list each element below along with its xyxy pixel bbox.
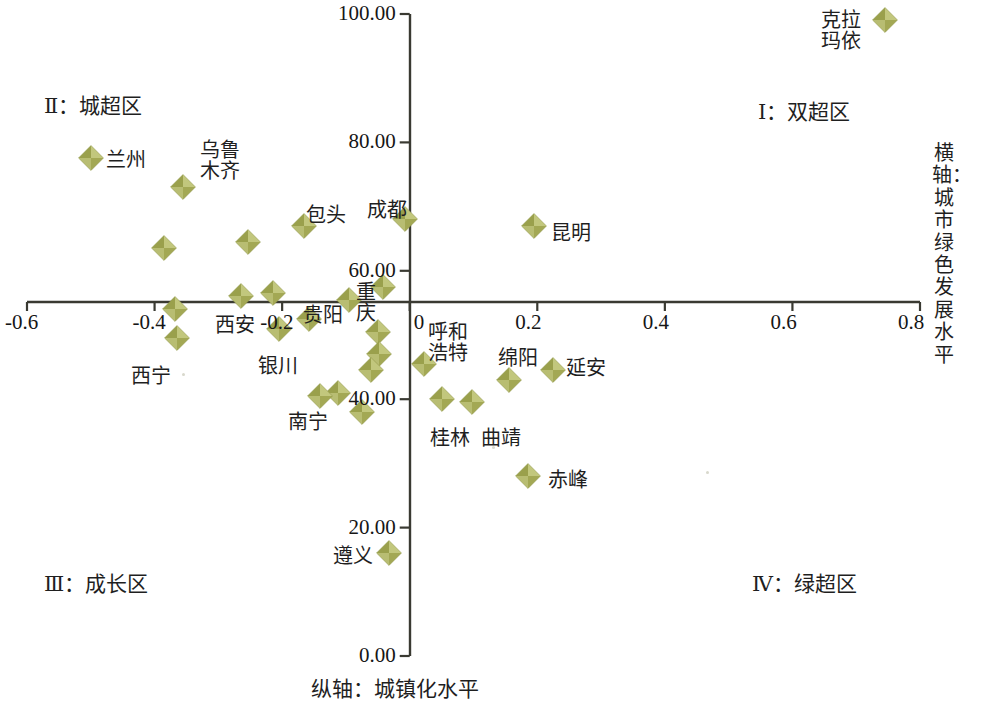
paper-speck [492,446,495,449]
y-axis-title: 纵轴：城镇化水平 [311,672,479,702]
paper-speck [903,322,906,325]
quadrant-label-i: Ⅰ：双超区 [758,95,850,125]
quadrant-label-layer: Ⅰ：双超区Ⅱ：城超区Ⅲ：成长区Ⅳ：绿超区 [0,0,984,702]
scatter-chart: 克拉 玛依兰州乌鲁 木齐包头成都昆明重 庆贵阳西安西宁银川南宁呼和 浩特绵阳延安… [0,0,984,702]
quadrant-label-iv: Ⅳ：绿超区 [752,567,857,597]
paper-speck [706,471,709,474]
paper-speck [182,373,185,376]
quadrant-label-iii: Ⅲ：成长区 [44,567,148,597]
x-axis-title: 横轴：城市绿色发展水平 [932,142,956,366]
quadrant-label-ii: Ⅱ：城超区 [44,89,142,119]
